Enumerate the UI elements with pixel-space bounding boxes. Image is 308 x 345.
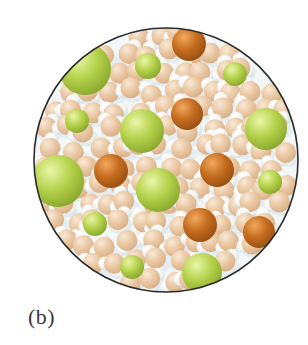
water-molecules-layer (30, 16, 303, 297)
green-ion (120, 109, 164, 153)
orange-ion (183, 208, 217, 242)
oxygen-atom (269, 191, 290, 212)
oxygen-atom (183, 77, 204, 98)
green-ion (245, 108, 287, 150)
green-ion (136, 168, 180, 212)
green-ion (135, 53, 161, 79)
orange-ion (171, 98, 203, 130)
orange-ion (243, 216, 275, 248)
molecular-view-figure (0, 0, 308, 345)
orange-ion (200, 153, 234, 187)
oxygen-atom (120, 77, 141, 98)
oxygen-atom (210, 134, 231, 155)
oxygen-atom (108, 209, 129, 230)
green-ion (258, 170, 282, 194)
green-ion (223, 62, 247, 86)
oxygen-atom (171, 138, 192, 159)
oxygen-atom (116, 230, 137, 251)
green-ion (59, 43, 111, 95)
green-ion (65, 109, 89, 133)
orange-ion (94, 154, 128, 188)
oxygen-atom (100, 116, 121, 137)
figure-label: (b) (28, 304, 55, 330)
green-ion (120, 255, 144, 279)
solution-contents (30, 16, 303, 297)
oxygen-atom (218, 230, 239, 251)
green-ion (83, 212, 107, 236)
figure-page: (b) (0, 0, 308, 345)
oxygen-atom (145, 248, 166, 269)
